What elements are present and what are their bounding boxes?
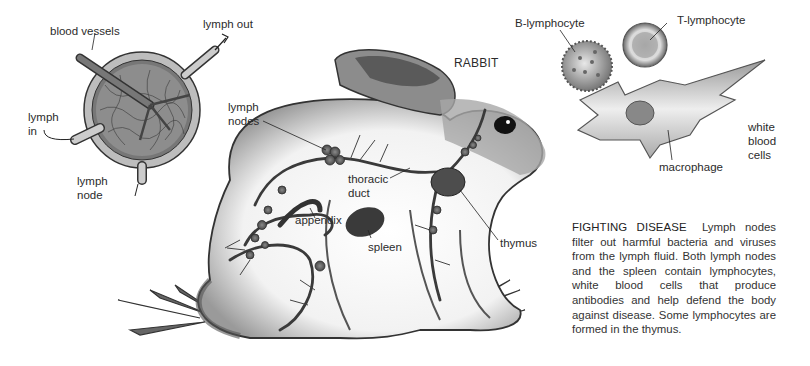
- label-white-blood-cells-line1: white: [748, 120, 775, 134]
- caption-body: Lymph nodes filter out harmful bacteria …: [572, 221, 776, 335]
- lymph-node-diagram: [44, 33, 228, 196]
- label-thoracic-duct-line1: thoracic: [348, 172, 388, 186]
- label-lymph-node-line1: lymph: [77, 174, 108, 188]
- label-white-blood-cells-line2: blood: [748, 134, 776, 148]
- label-macrophage: macrophage: [659, 160, 723, 174]
- label-t-lymphocyte: T-lymphocyte: [677, 13, 745, 27]
- caption: FIGHTING DISEASE Lymph nodes filter out …: [572, 220, 776, 337]
- label-rabbit: RABBIT: [454, 56, 499, 70]
- white-blood-cells: [560, 23, 765, 160]
- label-appendix: appendix: [295, 213, 342, 227]
- label-lymph-node-line2: node: [77, 188, 103, 202]
- label-white-blood-cells-line3: cells: [748, 148, 771, 162]
- label-thoracic-duct-line2: duct: [348, 186, 370, 200]
- label-lymph-out: lymph out: [203, 17, 253, 31]
- label-lymph-nodes-line2: nodes: [228, 114, 259, 128]
- label-lymph-nodes-line1: lymph: [228, 100, 259, 114]
- caption-heading: FIGHTING DISEASE: [572, 221, 687, 233]
- label-lymph-in-line1: lymph: [28, 110, 59, 124]
- label-spleen: spleen: [368, 240, 402, 254]
- label-blood-vessels: blood vessels: [50, 24, 120, 38]
- label-b-lymphocyte: B-lymphocyte: [515, 16, 585, 30]
- label-thymus: thymus: [500, 236, 537, 250]
- label-lymph-in-line2: in: [28, 124, 37, 138]
